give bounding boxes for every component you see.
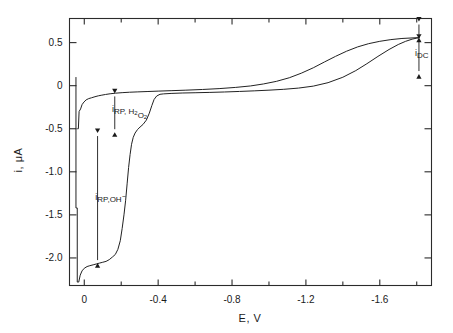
y-tick-label-1: 0 (57, 80, 63, 91)
y-axis-title: i, μA (12, 147, 24, 172)
y-tick-label-5: -2.0 (45, 252, 63, 263)
x-tick-label-3: -1.2 (297, 294, 315, 305)
x-tick-label-2: -0.8 (223, 294, 241, 305)
figure-background (0, 0, 453, 333)
voltammogram-figure: 0-0.4-0.8-1.2-1.6 0.50-0.5-1.0-1.5-2.0 i… (0, 0, 453, 333)
x-tick-label-1: -0.4 (150, 294, 168, 305)
y-tick-label-3: -1.0 (45, 166, 63, 177)
y-tick-label-2: -0.5 (45, 123, 63, 134)
y-tick-label-0: 0.5 (49, 37, 63, 48)
x-tick-label-0: 0 (81, 294, 87, 305)
y-tick-label-4: -1.5 (45, 209, 63, 220)
x-axis-title: E, V (239, 312, 262, 324)
x-tick-label-4: -1.6 (371, 294, 389, 305)
